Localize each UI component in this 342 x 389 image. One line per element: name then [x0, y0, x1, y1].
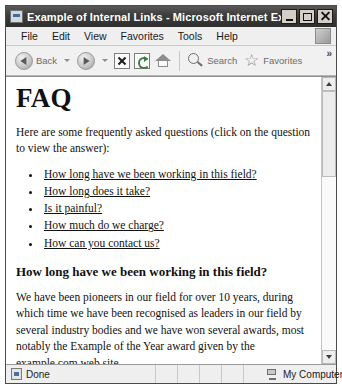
window-controls [281, 9, 334, 24]
back-history-dropdown-icon[interactable] [64, 59, 70, 62]
stop-icon[interactable] [114, 53, 130, 69]
list-item: How can you contact us? [42, 235, 311, 252]
status-message-pane: Done [6, 365, 156, 383]
list-item: How long does it take? [42, 183, 311, 200]
page-title: FAQ [16, 85, 311, 112]
menu-item-edit[interactable]: Edit [45, 30, 77, 42]
search-button-label: Search [207, 55, 237, 66]
navigation-toolbar: Back Search ☆ Favorites » [6, 46, 336, 76]
back-button[interactable]: Back [12, 52, 60, 70]
security-zone-text: My Computer [283, 369, 342, 380]
window-title: Example of Internal Links - Microsoft In… [27, 11, 281, 23]
answer-heading: How long have we been working in this fi… [16, 264, 311, 280]
content-area: FAQ Here are some frequently asked quest… [6, 76, 336, 364]
menu-item-help[interactable]: Help [209, 30, 245, 42]
menu-bar: File Edit View Favorites Tools Help [6, 27, 336, 46]
menu-item-view[interactable]: View [77, 30, 114, 42]
my-computer-icon [266, 368, 278, 380]
status-pane-5 [222, 365, 244, 383]
favorites-button[interactable]: ☆ Favorites [240, 53, 305, 69]
scroll-down-button[interactable] [322, 350, 336, 364]
menu-item-tools[interactable]: Tools [171, 30, 210, 42]
intro-paragraph: Here are some frequently asked questions… [16, 124, 311, 157]
status-pane-2 [156, 365, 178, 383]
question-link-5[interactable]: How can you contact us? [44, 237, 160, 249]
list-item: How long have we been working in this fi… [42, 166, 311, 183]
back-button-label: Back [36, 55, 57, 66]
document-icon [11, 368, 22, 380]
chevron-up-icon [326, 82, 332, 86]
desktop-background: Example of Internal Links - Microsoft In… [0, 0, 342, 389]
forward-button[interactable] [74, 52, 98, 70]
question-link-1[interactable]: How long have we been working in this fi… [44, 168, 257, 180]
forward-arrow-icon [77, 52, 95, 70]
list-item: Is it painful? [42, 200, 311, 217]
minimize-button[interactable] [281, 9, 297, 24]
status-text: Done [26, 369, 50, 380]
status-pane-4 [200, 365, 222, 383]
question-link-4[interactable]: How much do we charge? [44, 219, 164, 231]
security-zone-pane: My Computer [244, 365, 342, 383]
question-link-2[interactable]: How long does it take? [44, 185, 150, 197]
toolbar-separator [179, 51, 180, 71]
menu-item-favorites[interactable]: Favorites [114, 30, 171, 42]
search-button[interactable]: Search [185, 53, 240, 69]
refresh-icon[interactable] [134, 53, 150, 69]
back-arrow-icon [15, 52, 33, 70]
star-icon: ☆ [243, 53, 260, 69]
scrollbar-track[interactable] [322, 91, 336, 350]
browser-window: Example of Internal Links - Microsoft In… [5, 5, 337, 384]
toolbar-overflow-button[interactable]: » [326, 48, 332, 59]
scroll-up-button[interactable] [322, 77, 336, 91]
forward-history-dropdown-icon[interactable] [102, 59, 108, 62]
magnifier-icon [188, 53, 204, 69]
vertical-scrollbar[interactable] [321, 77, 336, 364]
page-icon [10, 10, 23, 23]
web-page-document: FAQ Here are some frequently asked quest… [6, 77, 321, 364]
status-bar: Done My Computer [6, 364, 336, 383]
browser-logo-icon [315, 28, 331, 44]
title-bar[interactable]: Example of Internal Links - Microsoft In… [6, 6, 336, 27]
question-link-list: How long have we been working in this fi… [16, 166, 311, 252]
scrollbar-thumb[interactable] [322, 91, 336, 177]
home-icon[interactable] [154, 53, 172, 69]
favorites-button-label: Favorites [263, 55, 302, 66]
close-button[interactable] [317, 9, 333, 24]
chevron-down-icon [326, 355, 332, 359]
maximize-button[interactable] [299, 9, 315, 24]
status-pane-3 [178, 365, 200, 383]
question-link-3[interactable]: Is it painful? [44, 202, 102, 214]
list-item: How much do we charge? [42, 217, 311, 234]
answer-paragraph: We have been pioneers in our field for o… [16, 289, 311, 365]
menu-item-file[interactable]: File [14, 30, 45, 42]
